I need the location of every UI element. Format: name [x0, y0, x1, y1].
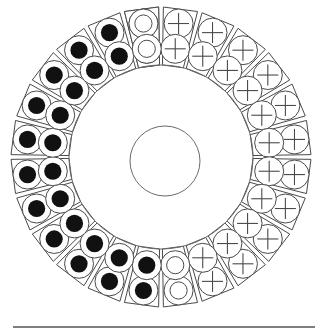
filled-dot-icon — [70, 255, 87, 272]
conductor-16-inner — [60, 209, 89, 238]
conductor-1-outer — [164, 9, 193, 38]
conductor-6-inner — [255, 128, 284, 157]
conductor-23-inner — [105, 42, 134, 71]
conductor-7-inner — [255, 157, 284, 186]
conductor-6-outer — [280, 125, 309, 154]
conductor-8-inner — [247, 184, 276, 213]
conductor-13-inner — [132, 251, 161, 280]
conductor-outline — [132, 34, 161, 63]
conductor-10-inner — [213, 229, 242, 258]
conductor-20-inner — [46, 101, 75, 130]
filled-dot-icon — [138, 257, 155, 274]
filled-dot-icon — [70, 42, 87, 59]
filled-dot-icon — [86, 62, 103, 79]
filled-dot-icon — [135, 282, 152, 299]
filled-dot-icon — [44, 163, 61, 180]
conductor-13-outer — [129, 276, 158, 305]
filled-dot-icon — [86, 235, 103, 252]
conductor-19-outer — [13, 125, 42, 154]
filled-dot-icon — [101, 273, 118, 290]
shaft-circle — [130, 126, 200, 196]
filled-dot-icon — [28, 200, 45, 217]
filled-dot-icon — [46, 230, 63, 247]
conductor-18-inner — [38, 157, 67, 186]
conductor-12-outer — [164, 276, 193, 305]
conductor-19-inner — [38, 128, 67, 157]
filled-dot-icon — [19, 131, 36, 148]
conductor-outline — [161, 251, 190, 280]
stator-cross-section-figure: Stator winding cross-section Annular sta… — [0, 0, 325, 336]
conductor-2-inner — [188, 42, 217, 71]
conductor-4-inner — [233, 76, 262, 105]
conductor-12-inner — [161, 251, 190, 280]
conductor-11-inner — [188, 243, 217, 272]
filled-dot-icon — [46, 66, 63, 83]
filled-dot-icon — [52, 190, 69, 207]
filled-dot-icon — [28, 97, 45, 114]
conductor-5-inner — [247, 101, 276, 130]
filled-dot-icon — [66, 215, 83, 232]
conductor-7-outer — [280, 160, 309, 189]
conductor-24-inner — [132, 34, 161, 63]
filled-dot-icon — [19, 166, 36, 183]
shaft-circle-layer — [130, 126, 200, 196]
conductor-18-outer — [13, 160, 42, 189]
conductor-22-inner — [80, 56, 109, 85]
filled-dot-icon — [52, 107, 69, 124]
filled-dot-icon — [101, 24, 118, 41]
stator-diagram-svg — [0, 0, 325, 336]
conductor-1-inner — [161, 34, 190, 63]
conductor-outline — [129, 9, 158, 38]
conductor-outline — [164, 276, 193, 305]
conductor-17-inner — [46, 184, 75, 213]
conductor-14-inner — [105, 243, 134, 272]
filled-dot-icon — [66, 82, 83, 99]
filled-dot-icon — [111, 48, 128, 65]
filled-dot-icon — [111, 249, 128, 266]
filled-dot-icon — [44, 134, 61, 151]
conductor-24-outer — [129, 9, 158, 38]
